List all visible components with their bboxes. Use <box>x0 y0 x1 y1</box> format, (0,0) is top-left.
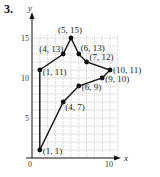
x-tick-label: 10 <box>105 160 113 169</box>
point-label: (1, 11) <box>43 67 67 77</box>
y-axis-label: y <box>27 3 32 13</box>
point-label: (6, 9) <box>82 82 102 92</box>
y-tick-label: 5 <box>25 114 29 123</box>
data-point <box>69 36 74 41</box>
point-label: (9, 10) <box>105 74 129 84</box>
point-label: (4, 7) <box>65 102 85 112</box>
point-label: (5, 15) <box>58 25 82 35</box>
point-label: (1, 1) <box>43 146 63 156</box>
data-point <box>37 68 42 73</box>
data-point <box>108 68 113 73</box>
x-axis-label: x <box>123 153 128 163</box>
data-point <box>100 76 105 81</box>
y-axis-arrow-icon <box>30 12 35 19</box>
x-tick-label: 0 <box>28 160 32 169</box>
y-tick-label: 10 <box>21 74 29 83</box>
point-label: (7, 12) <box>90 52 114 62</box>
data-point <box>37 148 42 153</box>
data-point <box>84 60 89 65</box>
line-chart: yx01051015(1, 1)(1, 11)(4, 13)(5, 15)(6,… <box>0 0 160 177</box>
point-label: (4, 13) <box>39 44 63 54</box>
x-axis-arrow-icon <box>114 156 121 161</box>
y-tick-label: 15 <box>21 34 29 43</box>
data-point <box>76 84 81 89</box>
